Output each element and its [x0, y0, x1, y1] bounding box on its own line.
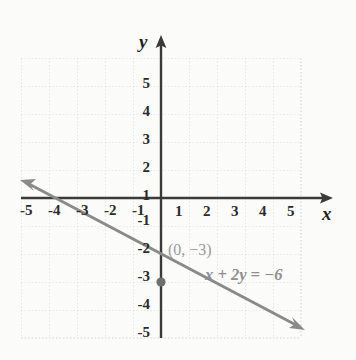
graph-canvas — [0, 0, 356, 360]
x-tick-5: 5 — [287, 204, 295, 219]
y-tick-neg-5: -5 — [124, 325, 150, 340]
y-tick-5: 5 — [132, 76, 150, 91]
x-tick-neg-4: -4 — [48, 203, 61, 218]
y-tick-neg-3: -3 — [124, 269, 150, 284]
y-tick-2: 2 — [132, 160, 150, 175]
y-tick-neg-4: -4 — [124, 297, 150, 312]
x-tick-neg-5: -5 — [20, 203, 33, 218]
y-tick-neg-2: -2 — [124, 241, 150, 256]
x-tick-neg-2: -2 — [104, 203, 117, 218]
x-tick-4: 4 — [259, 204, 267, 219]
x-tick-1: 1 — [175, 204, 183, 219]
x-tick-3: 3 — [231, 204, 239, 219]
x-tick-neg-3: -3 — [76, 203, 89, 218]
x-tick-neg-1: -1 — [132, 203, 145, 218]
equation-label: x + 2y = −6 — [205, 267, 282, 284]
y-tick-3: 3 — [132, 132, 150, 147]
x-tick-2: 2 — [203, 204, 211, 219]
y-tick-1: 1 — [132, 188, 150, 203]
x-axis-label: x — [322, 204, 332, 223]
point-label: (0, −3) — [168, 242, 212, 258]
y-axis-label: y — [139, 32, 147, 51]
coordinate-plane-figure: 5 4 3 2 1 -1 -2 -3 -4 -5 -5 -4 -3 -2 -1 … — [0, 0, 356, 360]
point-marker — [156, 277, 165, 286]
y-tick-4: 4 — [132, 104, 150, 119]
